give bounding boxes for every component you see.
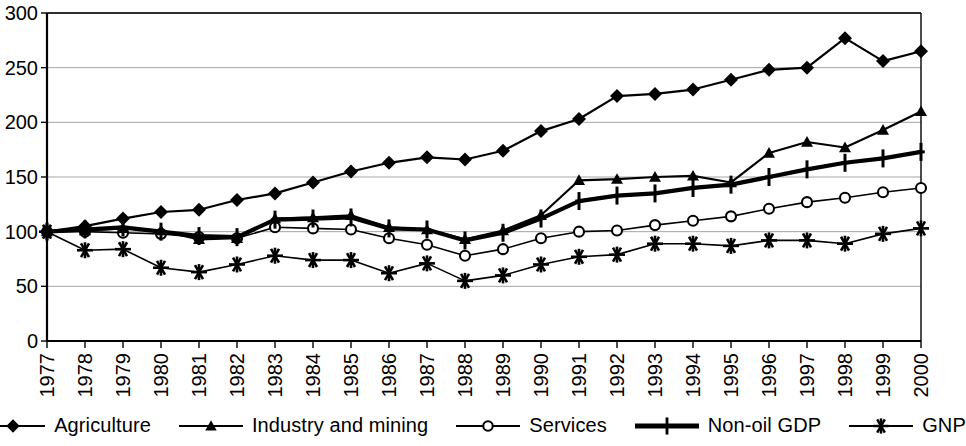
x-axis-tick-label: 1989 <box>492 353 514 398</box>
diamond-marker <box>306 175 320 189</box>
series-marker-circle-open <box>498 244 508 254</box>
y-axis-tick-label: 0 <box>27 330 38 352</box>
series-industry-and-mining <box>41 105 927 244</box>
series-marker-diamond <box>268 186 282 200</box>
x-axis-tick-label: 1992 <box>606 353 628 398</box>
open-circle-marker <box>498 244 508 254</box>
series-marker-asterisk <box>913 220 929 236</box>
diamond-marker <box>154 205 168 219</box>
diamond-marker <box>344 165 358 179</box>
diamond-marker <box>7 419 20 432</box>
series-marker-asterisk <box>723 238 739 254</box>
diamond-marker <box>724 73 738 87</box>
series-marker-triangle <box>915 105 927 116</box>
diamond-marker <box>458 153 472 167</box>
series-marker-plus <box>499 224 507 242</box>
series-marker-asterisk <box>115 241 131 257</box>
legend-item-agriculture[interactable]: Agriculture <box>0 414 151 438</box>
open-circle-marker <box>422 240 432 250</box>
series-marker-diamond <box>686 83 700 97</box>
series-marker-circle-open <box>688 216 698 226</box>
series-line <box>47 188 921 256</box>
series-marker-diamond <box>610 89 624 103</box>
legend-item-services[interactable]: Services <box>454 414 607 438</box>
series-marker-asterisk <box>685 236 701 252</box>
x-axis-tick-label: 1983 <box>264 353 286 398</box>
series-marker-diamond <box>192 203 206 217</box>
series-marker-circle-open <box>484 421 494 431</box>
x-axis-tick-label: 1997 <box>796 353 818 398</box>
y-axis-tick-label: 300 <box>5 2 38 24</box>
legend-label: Industry and mining <box>252 414 428 437</box>
series-marker-asterisk <box>837 236 853 252</box>
series-marker-diamond <box>7 419 20 432</box>
legend-label: GNP <box>922 414 966 437</box>
series-marker-asterisk <box>267 248 283 264</box>
series-marker-asterisk <box>609 247 625 263</box>
series-marker-diamond <box>648 87 662 101</box>
x-axis-tick-label: 1977 <box>36 353 58 398</box>
y-axis-tick-label: 200 <box>5 111 38 133</box>
series-marker-circle-open <box>726 211 736 221</box>
x-axis-tick-label: 2000 <box>910 353 932 398</box>
diamond-marker <box>382 156 396 170</box>
series-line <box>47 152 921 241</box>
x-axis-tick-label: 1999 <box>872 353 894 398</box>
legend-item-gnp[interactable]: GNP <box>847 414 966 438</box>
series-marker-plus <box>879 149 887 167</box>
series-marker-plus <box>613 187 621 205</box>
series-line <box>47 111 921 239</box>
series-marker-asterisk <box>799 232 815 248</box>
series-marker-plus <box>765 168 773 186</box>
series-marker-circle-open <box>764 204 774 214</box>
series-marker-diamond <box>876 54 890 68</box>
diamond-marker <box>572 112 586 126</box>
series-marker-circle-open <box>422 240 432 250</box>
series-marker-diamond <box>724 73 738 87</box>
legend-marker-asterisk-icon <box>847 414 915 438</box>
series-non-oil-gdp <box>43 143 925 250</box>
open-circle-marker <box>878 187 888 197</box>
series-marker-circle-open <box>650 220 660 230</box>
series-marker-triangle <box>801 136 813 147</box>
series-marker-circle-open <box>878 187 888 197</box>
open-circle-marker <box>536 233 546 243</box>
series-marker-plus <box>689 179 697 197</box>
legend-label: Services <box>529 414 607 437</box>
series-marker-asterisk <box>571 249 587 265</box>
x-axis-tick-label: 1998 <box>834 353 856 398</box>
legend-label: Non-oil GDP <box>708 414 821 437</box>
diamond-marker <box>496 144 510 158</box>
series-marker-circle-open <box>802 197 812 207</box>
legend-marker-plus-icon <box>633 414 701 438</box>
series-marker-diamond <box>344 165 358 179</box>
legend-item-industry-and-mining[interactable]: Industry and mining <box>177 414 428 438</box>
y-axis-tick-label: 150 <box>5 166 38 188</box>
series-agriculture <box>40 31 928 239</box>
x-axis-tick-label: 1996 <box>758 353 780 398</box>
series-marker-plus <box>423 220 431 238</box>
open-circle-marker <box>612 226 622 236</box>
series-marker-circle-open <box>612 226 622 236</box>
y-gridlines: 050100150200250300 <box>5 2 921 352</box>
series-marker-asterisk <box>153 260 169 276</box>
triangle-marker <box>915 105 927 116</box>
legend-item-non-oil-gdp[interactable]: Non-oil GDP <box>633 414 821 438</box>
series-marker-diamond <box>914 44 928 58</box>
open-circle-marker <box>688 216 698 226</box>
diamond-marker <box>762 63 776 77</box>
series-marker-asterisk <box>875 226 891 242</box>
legend-label: Agriculture <box>54 414 151 437</box>
series-marker-plus <box>663 417 670 434</box>
open-circle-marker <box>574 227 584 237</box>
x-axis-tick-label: 1986 <box>378 353 400 398</box>
series-marker-plus <box>727 176 735 194</box>
x-axis-tick-label: 1994 <box>682 353 704 398</box>
line-chart: 0501001502002503001977197819791980198119… <box>0 0 945 405</box>
series-marker-diamond <box>572 112 586 126</box>
x-axis-tick-label: 1980 <box>150 353 172 398</box>
series-marker-diamond <box>420 150 434 164</box>
series-marker-asterisk <box>533 256 549 272</box>
open-circle-marker <box>726 211 736 221</box>
